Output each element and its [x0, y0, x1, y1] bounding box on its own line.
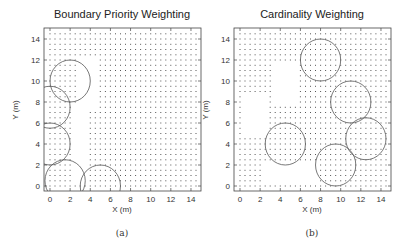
- sample-point: [105, 39, 106, 40]
- sample-point: [325, 54, 326, 55]
- sample-point: [145, 49, 146, 50]
- sample-point: [360, 86, 361, 87]
- sample-point: [150, 138, 151, 139]
- sample-point: [325, 133, 326, 134]
- sample-point: [70, 49, 71, 50]
- sample-point: [130, 117, 131, 118]
- sample-point: [155, 112, 156, 113]
- sample-point: [125, 112, 126, 113]
- sample-point: [285, 112, 286, 113]
- sample-point: [155, 70, 156, 71]
- sample-point: [240, 44, 241, 45]
- sample-point: [95, 39, 96, 40]
- sample-point: [280, 128, 281, 129]
- sample-point: [270, 81, 271, 82]
- sample-point: [260, 70, 261, 71]
- sample-point: [350, 165, 351, 166]
- sample-point: [275, 149, 276, 150]
- sample-point: [360, 138, 361, 139]
- sample-point: [100, 91, 101, 92]
- sample-point: [355, 49, 356, 50]
- sample-point: [170, 186, 171, 187]
- sample-point: [245, 86, 246, 87]
- sample-point: [155, 86, 156, 87]
- sample-point: [100, 170, 101, 171]
- sample-point: [170, 102, 171, 103]
- sample-point: [160, 165, 161, 166]
- sample-point: [345, 170, 346, 171]
- sample-point: [245, 159, 246, 160]
- sample-point: [185, 60, 186, 61]
- sample-point: [325, 33, 326, 34]
- sample-point: [65, 70, 66, 71]
- sample-point: [335, 91, 336, 92]
- sample-point: [165, 44, 166, 45]
- x-tick-label: 6: [298, 195, 303, 204]
- sample-point: [115, 44, 116, 45]
- sample-point: [95, 128, 96, 129]
- sample-point: [196, 138, 197, 139]
- sample-point: [100, 133, 101, 134]
- sample-point: [255, 44, 256, 45]
- sample-point: [191, 128, 192, 129]
- sample-point: [70, 165, 71, 166]
- sample-point: [130, 123, 131, 124]
- sample-point: [270, 107, 271, 108]
- sample-point: [330, 175, 331, 176]
- sample-point: [320, 123, 321, 124]
- sample-point: [275, 39, 276, 40]
- sample-point: [150, 65, 151, 66]
- panel-b: Cardinality Weighting (b) X (m) Y (m) 02…: [201, 8, 391, 238]
- sample-point: [130, 65, 131, 66]
- sample-point: [300, 112, 301, 113]
- sample-point: [155, 170, 156, 171]
- sample-point: [250, 49, 251, 50]
- sample-point: [330, 70, 331, 71]
- sample-point: [335, 180, 336, 181]
- panel-a-title: Boundary Priority Weighting: [54, 8, 190, 20]
- sample-point: [175, 54, 176, 55]
- sample-point: [330, 75, 331, 76]
- sample-point: [145, 165, 146, 166]
- sample-point: [120, 96, 121, 97]
- sample-point: [175, 117, 176, 118]
- sample-point: [120, 39, 121, 40]
- sample-point: [180, 123, 181, 124]
- sample-point: [305, 39, 306, 40]
- sample-point: [365, 65, 366, 66]
- sample-point: [140, 117, 141, 118]
- sample-point: [191, 107, 192, 108]
- sample-point: [85, 49, 86, 50]
- sample-point: [290, 49, 291, 50]
- sample-point: [245, 70, 246, 71]
- sample-point: [386, 96, 387, 97]
- sample-point: [185, 96, 186, 97]
- sample-point: [370, 138, 371, 139]
- sample-point: [315, 70, 316, 71]
- sample-point: [335, 86, 336, 87]
- sample-point: [250, 75, 251, 76]
- sample-point: [240, 70, 241, 71]
- sample-point: [70, 175, 71, 176]
- sample-point: [280, 133, 281, 134]
- sample-point: [196, 96, 197, 97]
- sample-point: [120, 112, 121, 113]
- sample-point: [355, 128, 356, 129]
- sample-point: [120, 54, 121, 55]
- sample-point: [381, 154, 382, 155]
- sample-point: [90, 159, 91, 160]
- sample-point: [125, 180, 126, 181]
- sample-point: [191, 175, 192, 176]
- sample-point: [90, 138, 91, 139]
- sample-point: [320, 117, 321, 118]
- sample-point: [130, 144, 131, 145]
- sample-point: [360, 96, 361, 97]
- sample-point: [375, 91, 376, 92]
- sample-point: [140, 49, 141, 50]
- sample-point: [110, 96, 111, 97]
- sample-point: [110, 186, 111, 187]
- sample-point: [250, 39, 251, 40]
- sample-point: [370, 44, 371, 45]
- sample-point: [105, 107, 106, 108]
- sample-point: [255, 86, 256, 87]
